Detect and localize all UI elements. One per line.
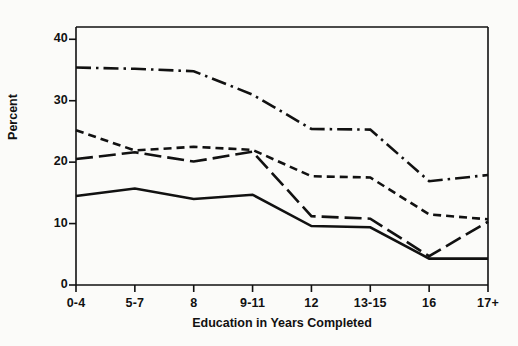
y-axis-title: Percent (6, 62, 20, 172)
series-short-dash (76, 130, 488, 219)
x-tick-label: 17+ (448, 296, 518, 310)
series-layer (76, 68, 488, 259)
axis-frame (76, 27, 488, 285)
x-axis-title: Education in Years Completed (76, 316, 488, 330)
y-tick-label: 0 (30, 277, 68, 291)
series-solid (76, 189, 488, 259)
chart-figure: 010203040 0-45-789-111213-151617+ Percen… (0, 0, 518, 346)
series-long-dash (76, 152, 488, 256)
y-tick-label: 40 (30, 31, 68, 45)
line-chart-plot (0, 0, 518, 346)
y-tick-label: 10 (30, 216, 68, 230)
y-tick-label: 30 (30, 93, 68, 107)
tick-marks (69, 39, 488, 292)
y-tick-label: 20 (30, 154, 68, 168)
